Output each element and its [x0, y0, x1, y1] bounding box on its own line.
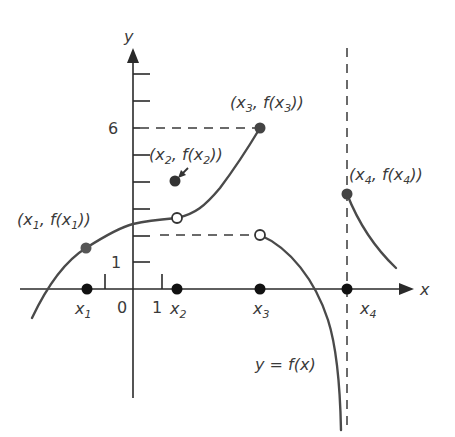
label-x2-fx2: (x2, f(x2)) [149, 145, 223, 167]
point-x3-fx3 [255, 123, 266, 134]
function-label: y = f(x) [254, 355, 316, 374]
axis-point-x2 [172, 284, 183, 295]
y-ticks [133, 74, 150, 262]
x-axis-label: x [419, 280, 430, 299]
point-x4-fx4 [342, 189, 353, 200]
point-x1-fx1 [81, 243, 92, 254]
axis-point-x1 [82, 284, 93, 295]
x2-label: x2 [169, 299, 186, 321]
x-tick-label-1: 1 [152, 298, 162, 317]
label-x1-fx1: (x1, f(x1)) [17, 210, 91, 232]
x3-label: x3 [252, 299, 269, 321]
pointer-arrow-icon [178, 168, 188, 178]
label-x3-fx3: (x3, f(x3)) [230, 93, 304, 115]
x4-label: x4 [359, 299, 376, 321]
curve-segment-middle [177, 128, 260, 218]
curve-segment-after-asymptote [347, 194, 396, 268]
axis-point-x3 [255, 284, 266, 295]
y-axis-label: y [123, 27, 134, 46]
open-circle-x3 [255, 230, 265, 240]
function-graph: y x 6 1 0 1 x1 x2 x3 x4 (x1, f(x1)) (x2,… [0, 0, 455, 437]
axis-point-x4 [342, 284, 353, 295]
curve-segment-right-down [260, 235, 341, 430]
label-x4-fx4: (x4, f(x4)) [349, 165, 423, 187]
y-axis-arrow-icon [127, 48, 139, 63]
open-circle-x2 [172, 213, 182, 223]
x1-label: x1 [74, 299, 91, 321]
origin-label: 0 [117, 298, 127, 317]
x-axis-arrow-icon [399, 283, 414, 295]
y-tick-label-6: 6 [108, 119, 118, 138]
y-tick-label-1: 1 [111, 253, 121, 272]
